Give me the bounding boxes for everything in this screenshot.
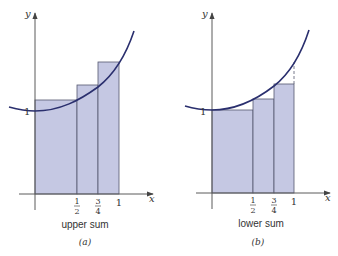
caption-upper-sum: upper sum <box>61 219 108 230</box>
x-tick-one: 1 <box>291 196 297 207</box>
x-tick-half: 1 2 <box>250 196 256 215</box>
svg-text:2: 2 <box>74 207 79 216</box>
upper-rect-3 <box>98 62 119 194</box>
svg-text:4: 4 <box>271 206 276 215</box>
svg-text:2: 2 <box>250 206 255 215</box>
svg-text:4: 4 <box>95 207 100 216</box>
y-axis-label: y <box>24 8 31 19</box>
svg-text:3: 3 <box>271 196 276 205</box>
x-tick-half: 1 2 <box>74 197 80 216</box>
x-tick-one: 1 <box>116 197 122 208</box>
lower-rect-2 <box>253 99 274 193</box>
x-tick-three-quarters: 3 4 <box>271 196 277 215</box>
riemann-sum-figure: y x 1 1 2 3 4 1 upper sum (a) y x 1 <box>0 0 338 256</box>
svg-text:1: 1 <box>250 196 255 205</box>
sublabel-a: (a) <box>79 237 92 247</box>
sublabel-b: (b) <box>252 237 265 247</box>
panel-lower-sum: y x 1 1 2 3 4 1 lower sum (b) <box>185 8 331 247</box>
caption-lower-sum: lower sum <box>238 218 284 229</box>
x-axis-label: x <box>149 193 155 204</box>
y-axis-label: y <box>201 8 208 19</box>
lower-rect-1 <box>212 110 253 193</box>
panel-upper-sum: y x 1 1 2 3 4 1 upper sum (a) <box>9 8 155 247</box>
lower-rect-3 <box>274 84 294 193</box>
x-tick-three-quarters: 3 4 <box>95 197 101 216</box>
y-tick-1: 1 <box>24 106 30 117</box>
svg-text:1: 1 <box>74 197 79 206</box>
upper-sum-rectangles <box>35 62 119 194</box>
y-tick-1: 1 <box>200 106 206 117</box>
svg-text:3: 3 <box>95 197 100 206</box>
x-axis-label: x <box>325 192 331 203</box>
upper-rect-1 <box>35 100 77 194</box>
upper-rect-2 <box>77 85 98 194</box>
